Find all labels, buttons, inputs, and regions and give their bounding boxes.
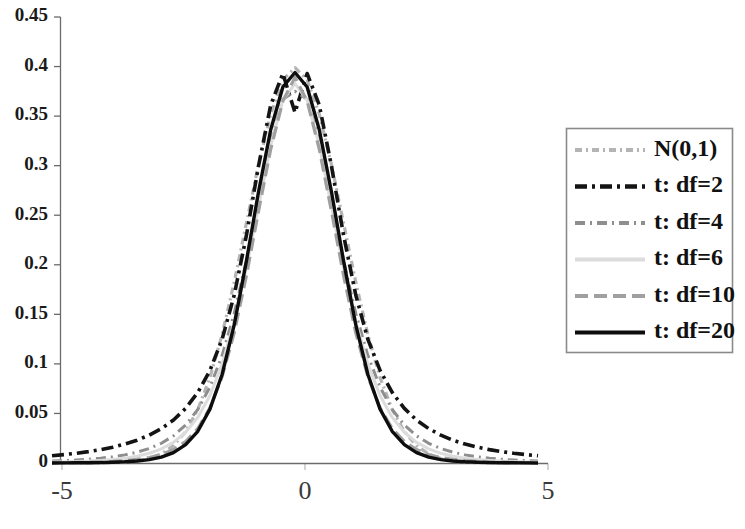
y-tick-label: 0.25 — [15, 203, 48, 224]
y-tick-label: 0.45 — [15, 4, 48, 25]
y-tick-label: 0.1 — [24, 351, 48, 372]
y-tick-label: 0.3 — [24, 153, 48, 174]
legend-label-t-df-2: t: df=2 — [654, 171, 723, 197]
legend-label-n-0-1-: N(0,1) — [654, 135, 717, 161]
y-tick-label: 0.4 — [24, 54, 48, 75]
legend-label-t-df-4: t: df=4 — [654, 208, 723, 234]
legend-label-t-df-20: t: df=20 — [654, 317, 735, 343]
x-tick-label: 0 — [299, 476, 312, 505]
x-tick-label: 5 — [542, 476, 555, 505]
x-tick-label: -5 — [51, 476, 73, 505]
y-tick-label: 0 — [39, 450, 49, 471]
legend-label-t-df-6: t: df=6 — [654, 244, 723, 270]
y-tick-label: 0.35 — [15, 103, 48, 124]
legend-label-t-df-10: t: df=10 — [654, 281, 735, 307]
y-tick-label: 0.05 — [15, 401, 48, 422]
t-distribution-chart: 00.050.10.150.20.250.30.350.40.45 -505 N… — [0, 0, 745, 529]
y-tick-label: 0.15 — [15, 302, 48, 323]
y-tick-label: 0.2 — [24, 252, 48, 273]
chart-legend: N(0,1)t: df=2t: df=4t: df=6t: df=10t: df… — [567, 129, 736, 353]
